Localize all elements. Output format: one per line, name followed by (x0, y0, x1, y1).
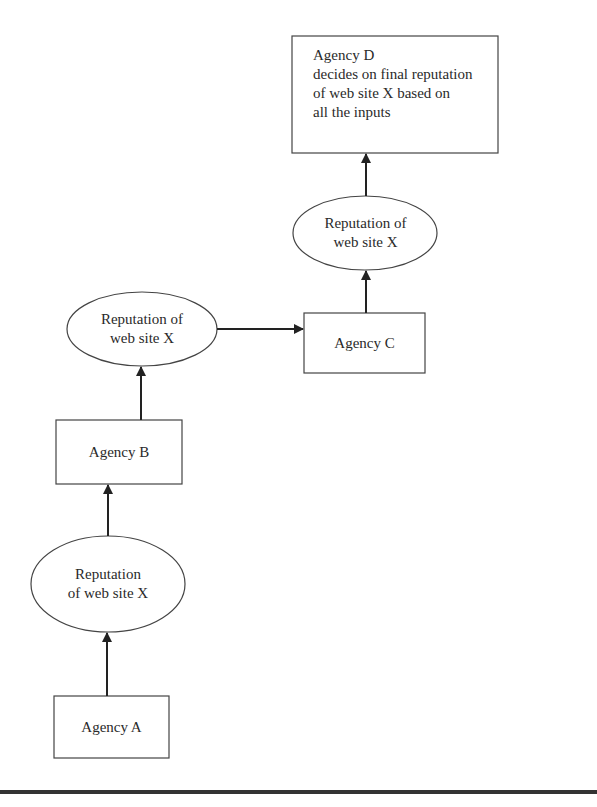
agency-b-label: Agency B (56, 443, 182, 462)
agency-d-text: Agency D decides on final reputation of … (313, 46, 498, 122)
bottom-rule (0, 790, 597, 794)
reputation-c-text: Reputation of web site X (293, 214, 438, 252)
agency-c-label: Agency C (304, 334, 425, 353)
reputation-b-line-2: web site X (67, 329, 217, 348)
reputation-b-text: Reputation of web site X (67, 310, 217, 348)
reputation-c-line-2: web site X (293, 233, 438, 252)
agency-d-line-1: decides on final reputation (313, 65, 498, 84)
agency-d-line-2: of web site X based on (313, 84, 498, 103)
reputation-b-line-1: Reputation of (67, 310, 217, 329)
reputation-a-line-1: Reputation (31, 565, 185, 584)
agency-a-label: Agency A (54, 718, 169, 737)
diagram-canvas (0, 0, 597, 807)
reputation-a-line-2: of web site X (31, 584, 185, 603)
reputation-c-line-1: Reputation of (293, 214, 438, 233)
reputation-a-text: Reputation of web site X (31, 565, 185, 603)
agency-d-title: Agency D (313, 46, 498, 65)
agency-d-line-3: all the inputs (313, 103, 498, 122)
